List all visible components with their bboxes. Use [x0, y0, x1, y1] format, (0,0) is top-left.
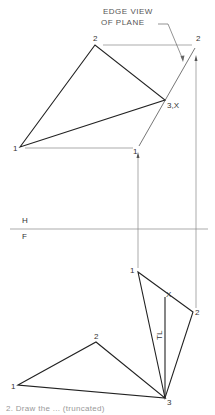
front-aux-point-x-label: X	[166, 290, 172, 299]
edge-view-note-line1: EDGE VIEW	[103, 7, 153, 16]
true-length-label: TL	[155, 330, 164, 340]
arrow-up-icon	[195, 55, 198, 61]
leader-arrow-icon	[181, 56, 185, 63]
front-point-1-label: 1	[11, 382, 16, 391]
plane-label-f: F	[22, 232, 27, 241]
edge-view-line	[139, 48, 195, 146]
front-point-2-label: 2	[94, 332, 99, 341]
front-point-3-label: 3	[167, 398, 172, 407]
leader-line	[158, 24, 183, 60]
edge-view-note-line2: OF PLANE	[101, 18, 145, 27]
figure-caption: 2. Draw the ... (truncated)	[6, 404, 105, 413]
orthographic-drawing: EDGE VIEW OF PLANE 2 3,X 1 2 1 H F 1 X 2…	[0, 0, 215, 415]
top-view-triangle	[20, 45, 165, 147]
front-aux-point-1-label: 1	[130, 266, 135, 275]
top-point-2-label: 2	[93, 34, 98, 43]
construction-lines	[10, 45, 208, 308]
plane-label-h: H	[22, 216, 28, 225]
aux-point-1-label: 1	[133, 147, 138, 156]
top-point-3x-label: 3,X	[167, 101, 180, 110]
front-aux-point-2-label: 2	[195, 308, 200, 317]
top-point-1-label: 1	[13, 144, 18, 153]
front-view-triangle	[18, 342, 165, 398]
aux-point-2-label: 2	[196, 34, 201, 43]
